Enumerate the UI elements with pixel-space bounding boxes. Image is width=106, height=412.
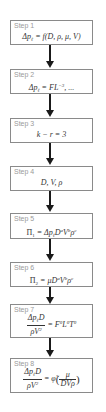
step-5-formula: Π1 = ΔpℓDaVbρc bbox=[11, 226, 92, 240]
step-3-formula: k − r = 3 bbox=[11, 130, 92, 139]
step-7-box: Step 7 ΔpℓD ρV2 = F0L0T0 bbox=[10, 304, 93, 338]
arrow-down-icon bbox=[48, 94, 52, 118]
fraction: ΔpℓD ρV2 bbox=[27, 314, 46, 336]
step-2-formula: Δpℓ = FL−3, ... bbox=[11, 81, 92, 95]
step-6-box: Step 6 Π2 = μDaVbρc bbox=[10, 262, 93, 287]
step-4-box: Step 4 D, V, ρ bbox=[10, 166, 93, 191]
step-1-box: Step 1 Δpℓ = f(D, ρ, μ, V) bbox=[10, 20, 93, 45]
step-6-formula: Π2 = μDaVbρc bbox=[11, 274, 92, 288]
step-4-label: Step 4 bbox=[14, 168, 34, 176]
step-8-formula: ΔpℓD ρV2 = φ̃( μ DVρ ) bbox=[11, 368, 92, 390]
step-2-label: Step 2 bbox=[14, 71, 34, 79]
step-5-label: Step 5 bbox=[14, 215, 34, 223]
step-6-label: Step 6 bbox=[14, 264, 34, 272]
step-1-formula: Δpℓ = f(D, ρ, μ, V) bbox=[11, 32, 92, 44]
step-1-label: Step 1 bbox=[14, 22, 34, 30]
step-5-box: Step 5 Π1 = ΔpℓDaVbρc bbox=[10, 213, 93, 239]
step-7-formula: ΔpℓD ρV2 = F0L0T0 bbox=[11, 314, 92, 336]
step-3-box: Step 3 k − r = 3 bbox=[10, 118, 93, 143]
arrow-down-icon bbox=[48, 287, 52, 304]
arrow-down-icon bbox=[48, 191, 52, 213]
step-3-label: Step 3 bbox=[14, 120, 34, 128]
step-2-box: Step 2 Δpℓ = FL−3, ... bbox=[10, 69, 93, 94]
fraction: μ DVρ bbox=[59, 371, 76, 388]
fraction: ΔpℓD ρV2 bbox=[23, 368, 42, 390]
step-8-box: Step 8 ΔpℓD ρV2 = φ̃( μ DVρ ) bbox=[10, 358, 93, 393]
arrow-down-icon bbox=[48, 338, 52, 358]
arrow-down-icon bbox=[48, 239, 52, 262]
step-4-formula: D, V, ρ bbox=[11, 178, 92, 187]
arrow-down-icon bbox=[48, 143, 52, 166]
arrow-down-icon bbox=[48, 45, 52, 69]
